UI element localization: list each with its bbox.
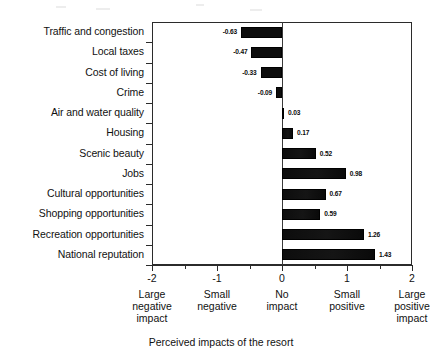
category-tick: [146, 63, 153, 64]
category-tick: [146, 184, 153, 185]
x-tick-label: 2: [392, 272, 432, 284]
value-label: -0.47: [219, 48, 247, 55]
category-label: Housing: [0, 127, 144, 138]
x-anchor-line: impact: [374, 312, 442, 324]
category-label: Air and water quality: [0, 107, 144, 118]
bar: [282, 249, 375, 260]
category-tick: [146, 123, 153, 124]
value-label: 0.52: [320, 150, 332, 157]
value-label: 1.26: [368, 231, 380, 238]
bar: [282, 148, 316, 159]
scan-artifact: [56, 6, 66, 8]
x-tick-major: [282, 265, 283, 271]
x-tick-major: [152, 265, 153, 271]
category-tick: [146, 83, 153, 84]
x-tick-minor: [250, 265, 251, 269]
scan-artifact: [250, 9, 262, 11]
bar: [282, 229, 364, 240]
category-label: Local taxes: [0, 46, 144, 57]
x-tick-minor: [185, 265, 186, 269]
value-label: 0.98: [350, 170, 362, 177]
x-tick-label: 1: [327, 272, 367, 284]
category-label: Crime: [0, 87, 144, 98]
category-label: Jobs: [0, 168, 144, 179]
x-anchor-line: positive: [374, 300, 442, 312]
value-label: 0.67: [330, 190, 342, 197]
x-axis-title: Perceived impacts of the resort: [0, 336, 442, 348]
bar: [282, 168, 346, 179]
bar-chart: Traffic and congestionLocal taxesCost of…: [0, 0, 442, 359]
bar: [282, 108, 284, 119]
x-anchor-label: Largepositiveimpact: [374, 288, 442, 324]
x-anchor-line: impact: [114, 312, 190, 324]
bar: [261, 67, 282, 78]
value-label: 0.59: [324, 210, 336, 217]
category-label: Recreation opportunities: [0, 229, 144, 240]
bar: [276, 87, 282, 98]
x-tick-major: [412, 265, 413, 271]
category-label: Shopping opportunities: [0, 208, 144, 219]
category-label: Traffic and congestion: [0, 26, 144, 37]
category-tick: [146, 245, 153, 246]
x-tick-label: -1: [197, 272, 237, 284]
value-label: -0.63: [209, 28, 237, 35]
category-tick: [146, 103, 153, 104]
value-label: -0.33: [229, 69, 257, 76]
bar: [282, 128, 293, 139]
category-tick: [146, 144, 153, 145]
x-tick-major: [217, 265, 218, 271]
bar: [251, 47, 282, 58]
bar: [241, 27, 282, 38]
value-label: 0.03: [288, 109, 300, 116]
scan-artifact: [196, 4, 204, 6]
category-tick: [146, 164, 153, 165]
category-label: Cost of living: [0, 67, 144, 78]
x-tick-minor: [380, 265, 381, 269]
category-label: National reputation: [0, 249, 144, 260]
x-tick-minor: [315, 265, 316, 269]
bar: [282, 189, 326, 200]
value-label: -0.09: [244, 89, 272, 96]
value-label: 0.17: [297, 129, 309, 136]
x-tick-label: -2: [132, 272, 172, 284]
category-label: Scenic beauty: [0, 148, 144, 159]
category-tick: [146, 225, 153, 226]
x-anchor-line: Large: [374, 288, 442, 300]
category-tick: [146, 42, 153, 43]
category-label: Cultural opportunities: [0, 188, 144, 199]
x-tick-major: [347, 265, 348, 271]
category-tick: [146, 204, 153, 205]
value-label: 1.43: [379, 251, 391, 258]
scan-artifact: [96, 8, 110, 10]
bar: [282, 209, 320, 220]
x-tick-label: 0: [262, 272, 302, 284]
